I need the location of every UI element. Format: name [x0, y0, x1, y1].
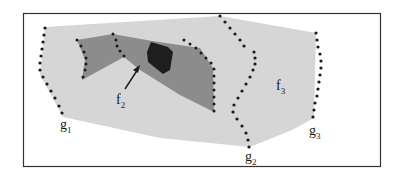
diagram-figure: f2 f3 g1 g2 g3 [0, 0, 396, 178]
